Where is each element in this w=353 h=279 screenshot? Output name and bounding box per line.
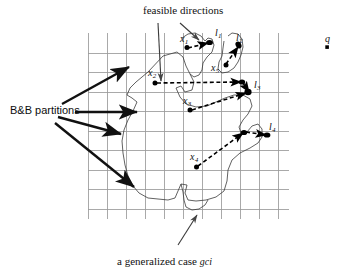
point-label-base-q: q	[325, 33, 330, 44]
terminal-markers	[206, 40, 270, 138]
bb-arrow-1	[62, 67, 129, 104]
bb-arrow-3	[58, 117, 121, 134]
point-label-base-x3: x	[183, 95, 187, 106]
point-label-l2: l2	[236, 33, 242, 45]
direction-path-x2-l3a	[157, 82, 241, 83]
figure-canvas: feasible directions B&B partitions a gen…	[0, 0, 353, 279]
generalized-case-label: a generalized case gci	[117, 256, 212, 267]
point-label-sub-x4: 4	[195, 156, 199, 164]
point-label-x1: x1	[180, 34, 188, 46]
generalized-case-subscript: i	[209, 256, 212, 267]
point-label-l1: l1	[215, 28, 221, 40]
bb-partition-arrows	[55, 67, 137, 187]
point-label-x5: x5	[211, 63, 219, 75]
direction-path-x1-l1	[188, 43, 208, 48]
point-label-l3: l3	[254, 80, 260, 92]
point-label-q: q	[325, 34, 330, 44]
background-grid	[88, 33, 289, 219]
generalized-case-symbol: gc	[200, 256, 209, 267]
point-x5	[224, 63, 229, 68]
point-label-sub-x1: 1	[185, 38, 189, 46]
sample-points	[153, 45, 329, 170]
direction-path-l4a-l4b	[246, 132, 266, 135]
point-label-base-x1: x	[180, 33, 184, 44]
point-label-sub-l4: 4	[272, 126, 276, 134]
point-label-sub-l2: 2	[239, 37, 243, 45]
direction-path-x5-l2	[226, 47, 238, 64]
point-x1	[185, 45, 190, 50]
point-label-base-x2: x	[148, 67, 152, 78]
generalized-case-notch	[181, 184, 208, 210]
leader-generalized-case	[178, 215, 197, 245]
point-label-base-x4: x	[190, 151, 194, 162]
bb-partitions-label: B&B partitions	[10, 105, 80, 116]
point-label-sub-l1: 1	[218, 32, 222, 40]
terminal-l3	[244, 89, 251, 95]
point-x3	[188, 108, 193, 113]
generalized-case-text: a generalized case	[117, 255, 197, 267]
bb-arrow-4	[55, 123, 134, 187]
point-q	[325, 45, 329, 49]
point-x4	[194, 165, 199, 170]
point-label-sub-x2: 2	[153, 72, 157, 80]
feasible-region-outline	[122, 52, 262, 201]
figure-vector-layer	[0, 0, 353, 279]
point-label-x4: x4	[190, 152, 198, 164]
point-x2	[153, 81, 158, 86]
direction-path-x3-l3	[192, 93, 246, 110]
terminal-l4-mid	[241, 130, 247, 135]
point-label-x3: x3	[183, 96, 191, 108]
point-label-sub-x5: 5	[216, 67, 220, 75]
point-label-l4: l4	[269, 122, 275, 134]
point-label-sub-l3: 3	[257, 84, 261, 92]
terminal-l3-upper	[239, 79, 245, 84]
direction-path-x4-l4a	[198, 133, 243, 166]
terminal-l1	[206, 40, 213, 45]
feasible-directions-label: feasible directions	[143, 5, 223, 16]
point-label-x2: x2	[148, 68, 156, 80]
point-label-sub-x3: 3	[188, 100, 192, 108]
point-label-base-x5: x	[211, 62, 215, 73]
